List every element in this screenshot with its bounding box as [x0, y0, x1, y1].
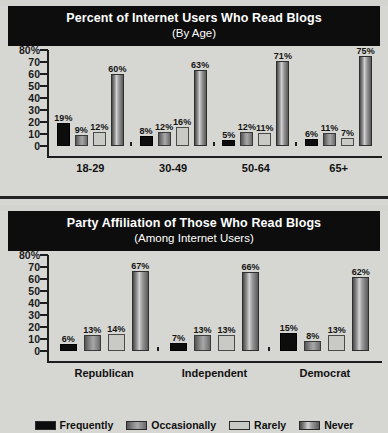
bar-value-label: 15%	[280, 323, 298, 333]
y-tick-mark	[40, 302, 48, 304]
y-tick-label: 60	[28, 68, 40, 80]
bar-occasionally: 11%	[323, 133, 336, 146]
group-separator-tick	[295, 142, 297, 146]
y-tick-mark	[40, 133, 48, 135]
bar-group: 5%12%11%71%	[222, 50, 289, 158]
bar-never: 66%	[242, 272, 259, 351]
bar-value-label: 11%	[321, 123, 339, 133]
y-tick-mark	[40, 278, 48, 280]
bar-value-label: 60%	[108, 64, 126, 74]
chart-subtitle-age: (By Age)	[8, 26, 380, 40]
bar-group: 8%12%16%63%	[140, 50, 207, 158]
y-tick-mark	[40, 254, 48, 256]
y-tick-label: 30	[28, 104, 40, 116]
bar-frequently: 19%	[57, 123, 70, 146]
y-tick-label: 60	[28, 273, 40, 285]
y-tick-label: 70	[28, 261, 40, 273]
y-tick-mark	[40, 145, 48, 147]
legend-label: Frequently	[60, 419, 114, 431]
bar-frequently: 6%	[305, 139, 318, 146]
chart-panel-party: Party Affiliation of Those Who Read Blog…	[0, 211, 388, 433]
y-tick-label: 10	[28, 128, 40, 140]
y-tick-mark	[40, 85, 48, 87]
bar-never: 63%	[194, 70, 207, 146]
bar-never: 75%	[359, 56, 372, 146]
legend-label: Occasionally	[151, 419, 216, 431]
y-tick-label: 50	[28, 80, 40, 92]
y-tick-label: 30	[28, 309, 40, 321]
bar-occasionally: 13%	[84, 335, 101, 351]
bar-value-label: 8%	[306, 331, 319, 341]
y-tick-mark	[40, 266, 48, 268]
bar-never: 60%	[111, 74, 124, 146]
bar-value-label: 67%	[131, 261, 149, 271]
legend-item: Never	[299, 419, 353, 431]
y-tick-mark	[40, 121, 48, 123]
bar-never: 62%	[352, 277, 369, 351]
category-label: 30-49	[159, 162, 187, 174]
bar-group-container-party: Republican6%13%14%67%Independent7%13%13%…	[49, 255, 380, 363]
y-tick-mark	[40, 109, 48, 111]
y-tick-label: 20	[28, 321, 40, 333]
bar-rarely: 7%	[341, 138, 354, 146]
legend-item: Frequently	[35, 419, 114, 431]
bar-value-label: 9%	[75, 125, 88, 135]
bar-value-label: 62%	[352, 267, 370, 277]
y-tick-mark	[40, 290, 48, 292]
category-label: 65+	[329, 162, 348, 174]
legend-swatch	[299, 421, 320, 430]
group-separator-tick	[268, 347, 270, 351]
y-tick-label: 20	[28, 116, 40, 128]
legend-swatch	[229, 421, 250, 430]
y-tick-mark	[40, 314, 48, 316]
bar-frequently: 15%	[280, 333, 297, 351]
bar-value-label: 5%	[222, 130, 235, 140]
y-tick-mark	[40, 326, 48, 328]
bar-group: 15%8%13%62%	[280, 255, 369, 363]
category-label: Democrat	[299, 367, 350, 379]
bar-value-label: 14%	[107, 324, 125, 334]
bar-value-label: 13%	[83, 325, 101, 335]
y-tick-label: 70	[28, 56, 40, 68]
bar-frequently: 8%	[140, 136, 153, 146]
bar-value-label: 6%	[62, 334, 75, 344]
y-tick-label: 80%	[19, 44, 40, 56]
bar-value-label: 13%	[193, 325, 211, 335]
bar-never: 67%	[132, 271, 149, 351]
bar-value-label: 6%	[305, 129, 318, 139]
bar-value-label: 12%	[90, 122, 108, 132]
bar-value-label: 19%	[54, 113, 72, 123]
legend-label: Never	[324, 419, 353, 431]
chart-title-age: Percent of Internet Users Who Read Blogs	[8, 11, 380, 26]
category-label: 50-64	[242, 162, 270, 174]
y-axis-party: 80%706050403020100	[6, 255, 50, 363]
chart-title-bar-party: Party Affiliation of Those Who Read Blog…	[8, 211, 380, 251]
y-tick-label: 10	[28, 333, 40, 345]
bar-group-container-age: 18-2919%9%12%60%30-498%12%16%63%50-645%1…	[49, 50, 380, 158]
bar-rarely: 13%	[218, 335, 235, 351]
bar-frequently: 7%	[170, 343, 187, 351]
category-label: Independent	[182, 367, 247, 379]
y-tick-mark	[40, 350, 48, 352]
bar-rarely: 11%	[258, 133, 271, 146]
legend-label: Rarely	[254, 419, 286, 431]
bar-group: 6%11%7%75%	[305, 50, 372, 158]
y-tick-mark	[40, 49, 48, 51]
y-tick-mark	[40, 338, 48, 340]
y-tick-mark	[40, 61, 48, 63]
plot-area-age: 80%706050403020100 18-2919%9%12%60%30-49…	[6, 50, 382, 170]
y-tick-mark	[40, 73, 48, 75]
group-separator-tick	[213, 142, 215, 146]
bar-value-label: 16%	[173, 117, 191, 127]
chart-panel-age: Percent of Internet Users Who Read Blogs…	[0, 6, 388, 205]
bar-rarely: 12%	[93, 132, 106, 146]
bar-value-label: 8%	[140, 126, 153, 136]
y-tick-label: 40	[28, 92, 40, 104]
bar-rarely: 14%	[108, 334, 125, 351]
category-label: Republican	[75, 367, 134, 379]
bar-value-label: 13%	[217, 325, 235, 335]
bar-group: 7%13%13%66%	[170, 255, 259, 363]
bar-value-label: 63%	[191, 60, 209, 70]
bar-value-label: 12%	[155, 122, 173, 132]
bar-occasionally: 9%	[75, 135, 88, 146]
